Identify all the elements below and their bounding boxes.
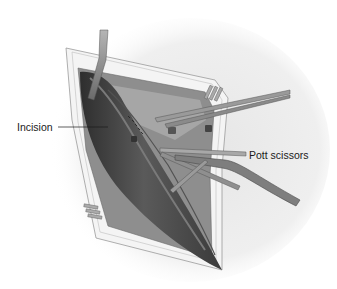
surgical-illustration: [0, 0, 337, 289]
pott-scissors-label: Pott scissors: [249, 150, 309, 161]
incision-label: Incision: [17, 122, 53, 133]
